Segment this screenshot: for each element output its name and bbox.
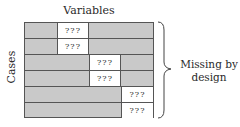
case-row: ??? <box>25 39 153 55</box>
missing-block: ??? <box>57 23 89 38</box>
annotation-line-2: design <box>178 71 240 84</box>
missing-block: ??? <box>121 87 153 102</box>
annotation-line-1: Missing by <box>178 58 240 71</box>
case-row: ??? <box>25 55 153 71</box>
case-row: ??? <box>25 23 153 39</box>
case-row: ??? <box>25 71 153 87</box>
case-row: ??? <box>25 87 153 103</box>
curly-brace-icon <box>156 20 176 120</box>
missing-block: ??? <box>89 55 121 70</box>
missing-block: ??? <box>89 71 121 86</box>
data-matrix: ??? ??? ??? ??? ??? ??? <box>24 22 154 118</box>
case-row: ??? <box>25 103 153 119</box>
missing-block: ??? <box>57 39 89 54</box>
missing-block: ??? <box>121 103 153 118</box>
variables-label: Variables <box>0 4 178 17</box>
cases-label: Cases <box>5 54 18 84</box>
missing-by-design-label: Missing by design <box>178 58 240 84</box>
